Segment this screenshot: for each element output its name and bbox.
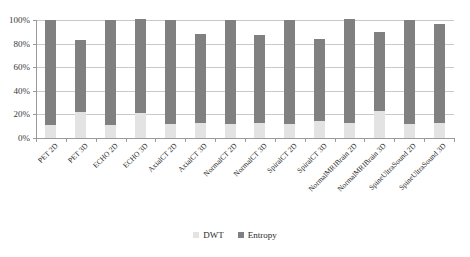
legend-item[interactable]: Entropy xyxy=(238,230,277,240)
y-tick-label: 100% xyxy=(0,16,30,25)
bar-segment-entropy xyxy=(434,24,445,123)
x-tick-label-text: PET 3D xyxy=(67,142,90,165)
bar-segment-entropy xyxy=(105,20,116,125)
bar-segment-entropy xyxy=(165,20,176,124)
bar-group[interactable] xyxy=(45,20,56,138)
legend-swatch-entropy xyxy=(238,232,244,238)
x-tick-label-text: SpiralCT 2D xyxy=(266,142,299,175)
bar-segment-entropy xyxy=(75,40,86,112)
x-tick-label-text: ECHO 3D xyxy=(121,142,149,170)
legend-swatch-dwt xyxy=(193,232,199,238)
bar-segment-dwt xyxy=(75,112,86,138)
bar-segment-entropy xyxy=(195,34,206,123)
bars-layer xyxy=(36,20,454,138)
bar-group[interactable] xyxy=(105,20,116,138)
x-tick-label-text: AxialCT 2D xyxy=(147,142,179,174)
bar-segment-entropy xyxy=(135,19,146,113)
bar-segment-entropy xyxy=(344,19,355,123)
bar-segment-entropy xyxy=(374,32,385,111)
x-tick-label-text: ECHO 2D xyxy=(91,142,119,170)
bar-group[interactable] xyxy=(75,20,86,138)
y-tick-label: 80% xyxy=(0,39,30,48)
y-tick-label: 60% xyxy=(0,63,30,72)
bar-segment-entropy xyxy=(404,20,415,124)
bar-segment-entropy xyxy=(254,35,265,122)
legend-label: DWT xyxy=(203,230,224,240)
chart-container: 100%80%60%40%20%0% PET 2DPET 3DECHO 2DEC… xyxy=(0,0,470,257)
bar-segment-entropy xyxy=(284,20,295,124)
x-axis-labels: PET 2DPET 3DECHO 2DECHO 3DAxialCT 2DAxia… xyxy=(0,142,470,214)
bar-segment-dwt xyxy=(45,125,56,138)
plot-area xyxy=(36,20,454,138)
x-tick-label-text: PET 2D xyxy=(37,142,60,165)
y-tick-label: 20% xyxy=(0,110,30,119)
bar-segment-entropy xyxy=(225,20,236,124)
chart-legend: DWTEntropy xyxy=(0,228,470,242)
y-axis-labels: 100%80%60%40%20%0% xyxy=(0,20,32,138)
bar-segment-entropy xyxy=(45,20,56,125)
y-tick-label: 40% xyxy=(0,86,30,95)
legend-label: Entropy xyxy=(248,230,277,240)
bar-segment-dwt xyxy=(105,125,116,138)
legend-item[interactable]: DWT xyxy=(193,230,224,240)
bar-segment-entropy xyxy=(314,39,325,122)
